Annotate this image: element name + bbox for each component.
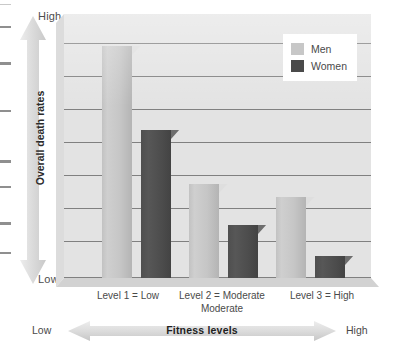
x-axis-title: Fitness levels [66,324,338,336]
legend-swatch-women-icon [291,60,304,72]
bar-front-face [189,184,219,278]
bar-front-face [228,225,258,278]
ruler-tick [0,26,11,28]
x-axis-low-label: Low [32,324,51,336]
legend-label-men: Men [311,44,331,55]
x-axis-arrow-group: Fitness levels [66,320,338,342]
y-axis-title: Overall death rates [34,78,46,198]
bar-women-level-2 [228,225,258,278]
bar-women-level-1 [141,130,171,278]
chart-figure: High Low Overall death rates [0,0,396,350]
ruler-tick [0,110,11,112]
ruler-tick [0,62,11,65]
y-axis-arrow-group: High Low Overall death rates [18,14,48,286]
ruler-tick [0,4,11,5]
ruler-tick [0,160,11,163]
x-category-sublabel-2: Moderate [152,303,292,314]
ruler-tick [0,252,11,254]
plot-floor [56,278,379,287]
x-axis-high-label: High [346,324,368,336]
ruler-tick [0,222,11,225]
bar-front-face [276,197,306,278]
legend-label-women: Women [311,61,347,72]
legend-item-men: Men [291,41,347,57]
x-category-label-3: Level 3 = High [262,290,382,301]
plot-area: Men Women [56,14,379,286]
ruler-tick [0,186,11,188]
bar-men-level-1 [102,46,132,278]
legend: Men Women [283,34,357,81]
legend-item-women: Women [291,58,347,74]
bar-women-level-3 [315,256,345,278]
bar-front-face [141,130,171,278]
legend-swatch-men-icon [291,43,304,55]
bar-front-face [315,256,345,278]
bar-front-face [102,46,132,278]
bar-men-level-3 [276,197,306,278]
bar-men-level-2 [189,184,219,278]
